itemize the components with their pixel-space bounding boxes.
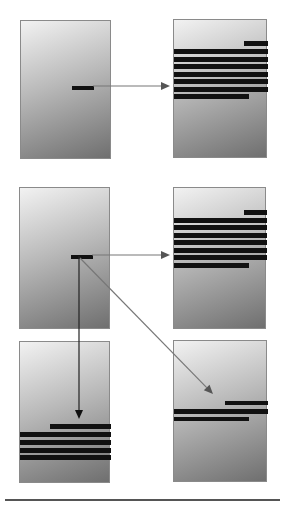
arrow-a-to-b-icon [93,82,170,90]
arrow-c-to-f-icon [80,258,213,394]
arrows-layer [0,0,281,505]
arrow-c-to-e-icon [75,256,83,419]
arrow-c-to-d-icon [92,251,170,259]
